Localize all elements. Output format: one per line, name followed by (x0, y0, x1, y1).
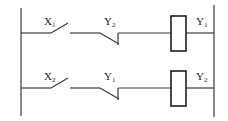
coil-label: Y1 (196, 15, 208, 29)
contact-nc-y1: Y1 (70, 70, 119, 100)
rung-1: X1 Y2 Y1 (21, 15, 214, 51)
contact-no-x2: X2 (21, 70, 68, 88)
contact-label: Y1 (104, 70, 116, 84)
ladder-diagram: X1 Y2 Y1 X2 Y1 Y (0, 0, 228, 121)
contact-nc-y2: Y2 (70, 15, 119, 45)
contact-label: X2 (44, 70, 56, 84)
coil-y1: Y1 (171, 15, 214, 51)
coil-label: Y2 (196, 70, 208, 84)
rung-2: X2 Y1 Y2 (21, 70, 214, 106)
contact-no-x1: X1 (21, 15, 68, 33)
contact-label: X1 (44, 15, 56, 29)
contact-label: Y2 (104, 15, 116, 29)
coil-y2: Y2 (171, 70, 214, 106)
